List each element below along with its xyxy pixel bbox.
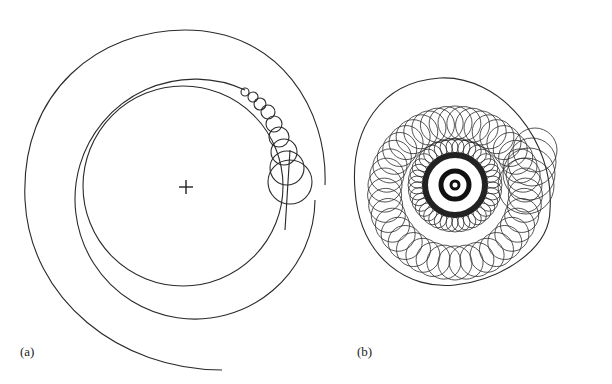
figure-canvas [0, 0, 612, 384]
panel-a-label: (a) [20, 344, 34, 360]
panel-b-label: (b) [357, 344, 372, 360]
middle-orbit [75, 79, 315, 319]
inner-orbit [83, 86, 283, 286]
loop-chain [241, 88, 312, 204]
radial-line [285, 150, 290, 230]
panel-b-diagram [354, 78, 557, 286]
panel-a-diagram [25, 30, 325, 370]
spiral-core [425, 155, 485, 215]
center-cross-icon [179, 180, 193, 194]
